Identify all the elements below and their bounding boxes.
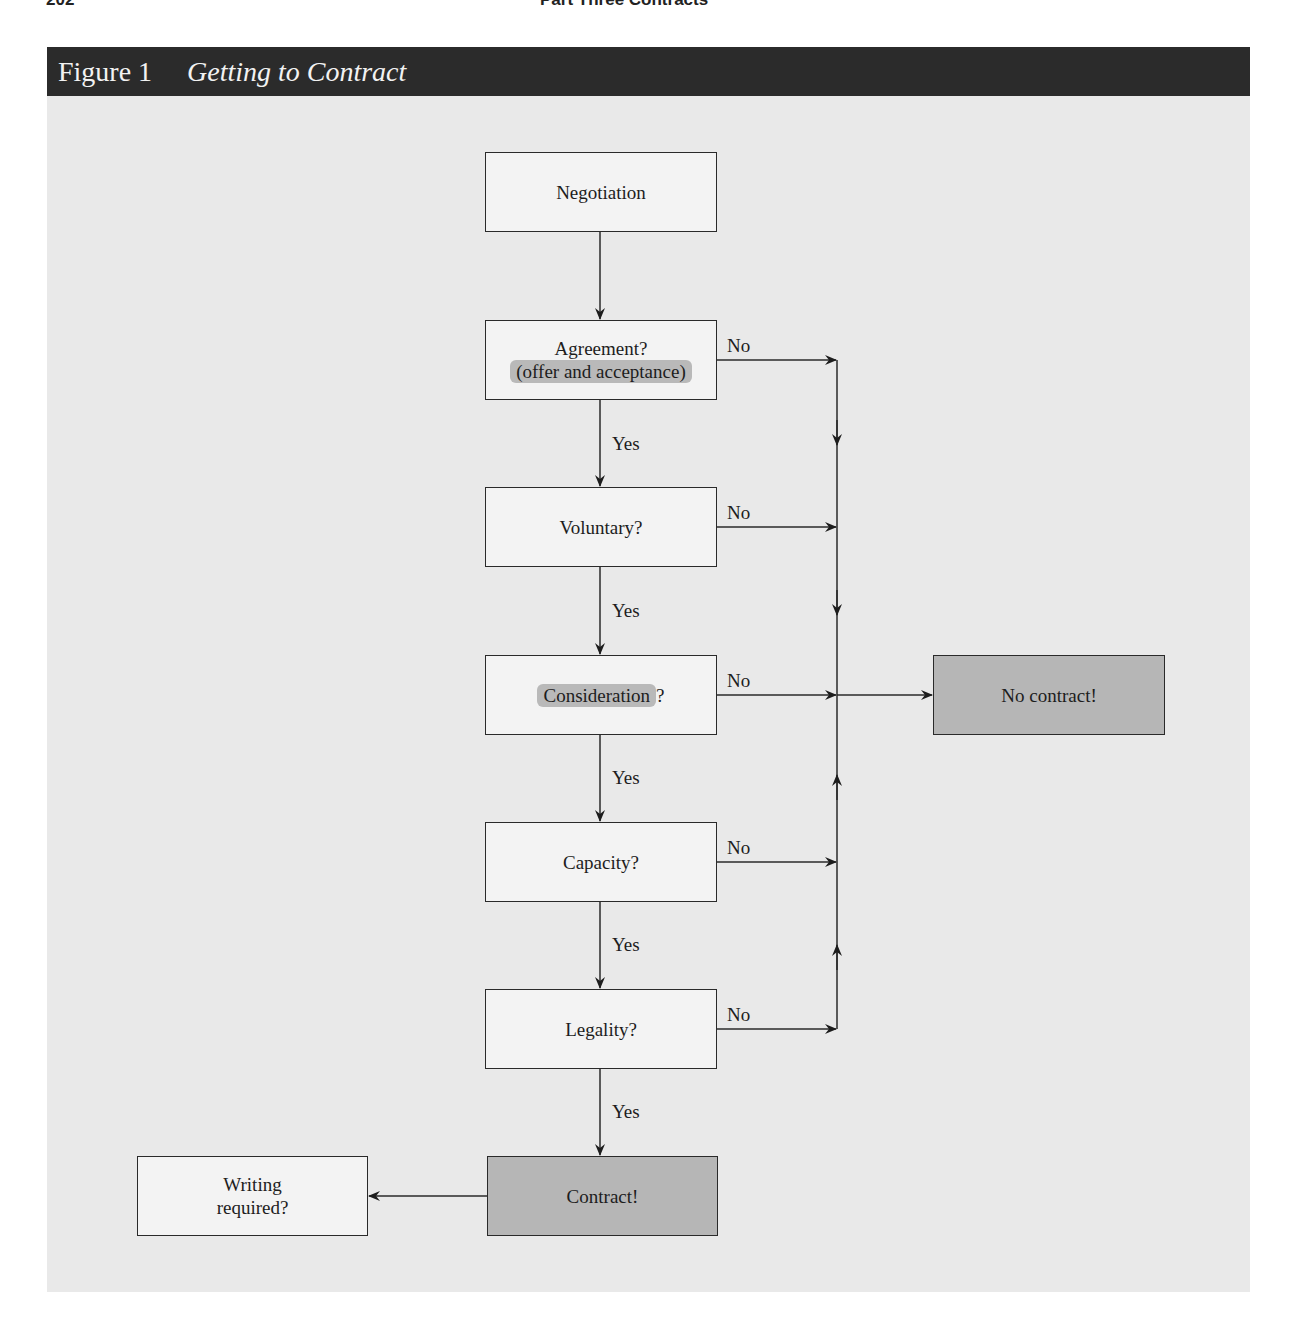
node-no-contract: No contract!: [933, 655, 1165, 735]
edge-label-no: No: [727, 1004, 750, 1026]
edge-label-yes: Yes: [612, 767, 640, 789]
node-contract: Contract!: [487, 1156, 718, 1236]
node-label: Negotiation: [556, 181, 646, 204]
node-consideration: Consideration?: [485, 655, 717, 735]
node-label: Writing: [223, 1173, 281, 1196]
edge-label-no: No: [727, 837, 750, 859]
node-negotiation: Negotiation: [485, 152, 717, 232]
node-capacity: Capacity?: [485, 822, 717, 902]
highlighted-text: (offer and acceptance): [510, 360, 691, 383]
edge-label-yes: Yes: [612, 433, 640, 455]
node-writing-required: Writing required?: [137, 1156, 368, 1236]
edge-label-no: No: [727, 670, 750, 692]
node-label: No contract!: [1001, 684, 1096, 707]
edge-label-no: No: [727, 502, 750, 524]
node-label: Capacity?: [563, 851, 639, 874]
node-agreement: Agreement? (offer and acceptance): [485, 320, 717, 400]
edge-label-yes: Yes: [612, 934, 640, 956]
edge-label-yes: Yes: [612, 1101, 640, 1123]
node-label: Legality?: [565, 1018, 637, 1041]
node-voluntary: Voluntary?: [485, 487, 717, 567]
node-label: required?: [217, 1196, 289, 1219]
node-label-suffix: ?: [656, 684, 664, 707]
edge-label-yes: Yes: [612, 600, 640, 622]
edge-label-no: No: [727, 335, 750, 357]
node-label: Agreement?: [555, 337, 648, 360]
highlighted-text: Consideration: [537, 684, 656, 707]
node-legality: Legality?: [485, 989, 717, 1069]
node-label: Voluntary?: [559, 516, 642, 539]
node-label: Contract!: [567, 1185, 639, 1208]
